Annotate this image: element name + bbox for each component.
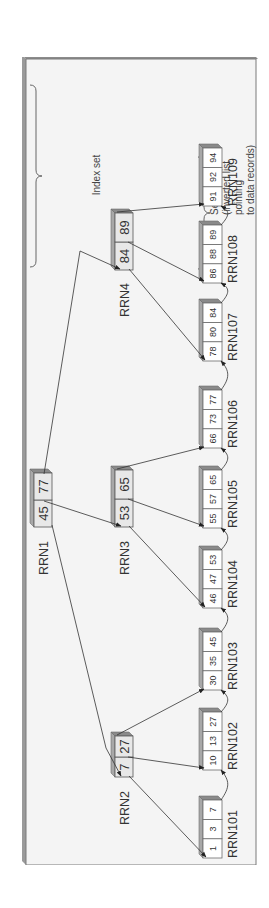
index-key: 65 — [117, 477, 132, 491]
seq-node-top — [199, 386, 203, 448]
node-label: RRN109 — [226, 158, 240, 206]
sequence-set-label-line-4: to data records) — [245, 145, 256, 215]
seq-node-side — [199, 144, 222, 148]
seq-key: 35 — [208, 656, 218, 666]
index-key: 53 — [117, 506, 132, 520]
index-node-rrn1-side — [30, 469, 52, 473]
seq-key: 91 — [208, 191, 218, 201]
seq-key: 65 — [208, 475, 218, 485]
seq-node-side — [199, 708, 222, 712]
seq-key: 78 — [208, 346, 218, 356]
seq-node-side — [199, 299, 222, 303]
seq-key: 66 — [208, 433, 218, 443]
seq-key: 46 — [208, 593, 218, 603]
seq-key: 10 — [208, 755, 218, 765]
seq-node-top — [199, 144, 203, 206]
seq-node-top — [199, 546, 203, 608]
seq-node-top — [199, 796, 203, 858]
seq-key: 55 — [208, 513, 218, 523]
node-label: RRN103 — [226, 642, 240, 690]
seq-key: 92 — [208, 172, 218, 182]
node-label: RRN104 — [226, 560, 240, 608]
index-key: 77 — [36, 479, 51, 493]
index-set-label: Index set — [91, 154, 102, 195]
node-label: RRN108 — [226, 235, 240, 283]
btree-diagram: Index set Sequence set (inverted list po… — [22, 57, 258, 865]
seq-key: 3 — [208, 826, 218, 831]
frame-edge-left — [22, 57, 26, 865]
seq-key: 13 — [208, 736, 218, 746]
seq-node-side — [199, 221, 222, 225]
node-label: RRN4 — [118, 283, 132, 317]
node-label: RRN2 — [118, 791, 132, 825]
seq-key: 1 — [208, 846, 218, 851]
index-node-rrn4-top — [111, 209, 115, 270]
index-key: 7 — [117, 763, 132, 770]
seq-key: 84 — [208, 308, 218, 318]
seq-key: 77 — [208, 395, 218, 405]
index-key: 27 — [117, 739, 132, 753]
seq-node-top — [199, 299, 203, 361]
node-label: RRN102 — [226, 722, 240, 770]
index-node-rrn1-top — [30, 469, 34, 527]
seq-key: 47 — [208, 574, 218, 584]
node-label: RRN107 — [226, 313, 240, 361]
node-label: RRN3 — [118, 541, 132, 575]
seq-node-top — [199, 466, 203, 528]
node-label: RRN105 — [226, 480, 240, 528]
seq-node-top — [199, 221, 203, 283]
seq-key: 88 — [208, 249, 218, 259]
seq-key: 53 — [208, 555, 218, 565]
index-key: 89 — [117, 220, 132, 234]
index-key: 84 — [117, 249, 132, 263]
index-node-rrn3-top — [111, 466, 115, 527]
seq-key: 86 — [208, 268, 218, 278]
node-label: RRN106 — [226, 400, 240, 448]
seq-node-side — [199, 796, 222, 800]
seq-key: 57 — [208, 494, 218, 504]
index-key: 45 — [36, 506, 51, 520]
seq-node-top — [199, 628, 203, 690]
seq-key: 80 — [208, 327, 218, 337]
seq-key: 45 — [208, 637, 218, 647]
seq-key: 7 — [208, 807, 218, 812]
seq-node-top — [199, 708, 203, 770]
seq-key: 89 — [208, 230, 218, 240]
diagram-stage: Index set Sequence set (inverted list po… — [22, 57, 258, 865]
seq-key: 30 — [208, 675, 218, 685]
seq-node-side — [199, 466, 222, 470]
seq-node-side — [199, 628, 222, 632]
seq-node-side — [199, 546, 222, 550]
seq-key: 94 — [208, 153, 218, 163]
index-node-rrn2-top — [111, 732, 115, 777]
seq-key: 27 — [208, 717, 218, 727]
seq-key: 73 — [208, 414, 218, 424]
seq-node-side — [199, 386, 222, 390]
node-label: RRN101 — [226, 810, 240, 858]
node-label: RRN1 — [37, 541, 51, 575]
